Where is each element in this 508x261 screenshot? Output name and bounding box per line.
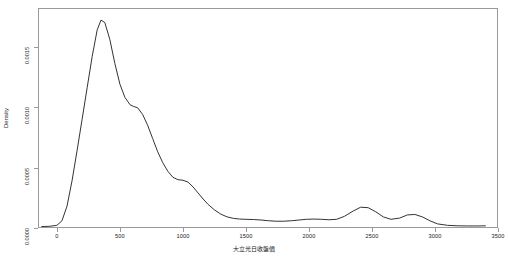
x-tick-mark (309, 228, 310, 232)
y-tick-mark (34, 228, 38, 229)
x-tick-mark (435, 228, 436, 232)
x-tick-mark (498, 228, 499, 232)
x-tick-label: 0 (55, 234, 58, 240)
y-axis-title: Density (3, 108, 9, 128)
density-curve-line (42, 20, 486, 226)
x-tick-label: 3000 (429, 234, 442, 240)
x-tick-label: 1500 (240, 234, 253, 240)
density-plot-figure: 0500100015002000250030003500 0.00000.000… (0, 0, 508, 261)
x-tick-mark (372, 228, 373, 232)
y-tick-label: 0.0015 (25, 47, 31, 64)
x-axis-title: 大立光日收盤價 (0, 246, 508, 252)
x-tick-mark (57, 228, 58, 232)
y-tick-label: 0.0005 (25, 168, 31, 185)
density-curve-svg (38, 8, 498, 228)
x-tick-mark (183, 228, 184, 232)
x-tick-label: 3500 (492, 234, 505, 240)
y-tick-mark (34, 107, 38, 108)
x-tick-mark (120, 228, 121, 232)
y-tick-label: 0.0000 (25, 228, 31, 245)
x-tick-mark (246, 228, 247, 232)
x-tick-label: 500 (115, 234, 125, 240)
x-tick-label: 2000 (303, 234, 316, 240)
y-tick-mark (34, 168, 38, 169)
y-tick-mark (34, 47, 38, 48)
y-tick-label: 0.0010 (25, 107, 31, 124)
x-tick-label: 1000 (176, 234, 189, 240)
x-tick-label: 2500 (366, 234, 379, 240)
